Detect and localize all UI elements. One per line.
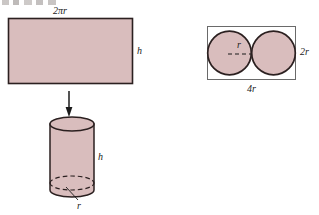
circles-box-height-label: 2r [300,47,309,57]
cylinder [50,117,94,200]
cylinder-height-label: h [98,152,103,162]
base-circle-left [208,31,252,75]
lateral-surface-rect-shape [9,19,133,84]
lateral-surface-rectangle [9,19,133,84]
base-circles-group [208,27,296,80]
circles-box-width-label: 4r [247,84,256,94]
fold-arrow [66,91,73,117]
cylinder-body [50,124,94,197]
cylinder-radius-label: r [77,201,81,211]
base-circle-right [252,31,296,75]
rect-width-label: 2πr [53,6,67,16]
figure-vector-layer [0,0,319,215]
rect-height-label: h [137,46,142,56]
circles-radius-label: r [237,40,241,50]
cylinder-top-ellipse [50,117,94,131]
fold-arrow-head [66,107,73,117]
geometry-figure: 2πr h h r r 4r 2r [0,0,319,215]
